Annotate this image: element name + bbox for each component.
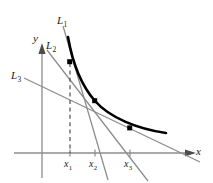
tangent-line-L2 — [47, 50, 148, 181]
tick-label-x1: x1 — [64, 159, 72, 169]
convex-decreasing-curve — [68, 37, 166, 133]
tangent-lines-figure: x y L1 L2 L3 x1 x2 x3 — [0, 0, 213, 183]
tangent-label-L2-subscript: 2 — [52, 45, 56, 54]
x-axis-label: x — [196, 146, 201, 157]
tick-label-x1-subscript: 1 — [69, 164, 72, 171]
tangent-label-L2: L2 — [46, 40, 56, 51]
tangency-point-2 — [92, 98, 97, 103]
tick-label-x3: x3 — [124, 159, 132, 169]
tick-label-x2-text: x — [89, 158, 93, 169]
tangent-label-L1-subscript: 1 — [63, 20, 67, 29]
tangent-label-L3: L3 — [11, 70, 21, 81]
tick-label-x3-subscript: 3 — [129, 164, 132, 171]
tick-label-x3-text: x — [124, 158, 128, 169]
tangent-line-L3 — [24, 78, 200, 162]
y-axis-label: y — [33, 33, 38, 44]
tick-label-x1-text: x — [64, 158, 68, 169]
tick-label-x2: x2 — [89, 159, 97, 169]
tangent-label-L3-subscript: 3 — [17, 75, 21, 84]
tick-label-x2-subscript: 2 — [94, 164, 97, 171]
tangency-point-1 — [67, 59, 72, 64]
y-axis-label-text: y — [33, 32, 38, 44]
x-axis-label-text: x — [196, 145, 201, 157]
tangency-point-3 — [127, 125, 132, 130]
y-axis-arrow-icon — [38, 43, 45, 54]
tangent-label-L1: L1 — [57, 15, 67, 26]
figure-canvas — [0, 0, 213, 183]
